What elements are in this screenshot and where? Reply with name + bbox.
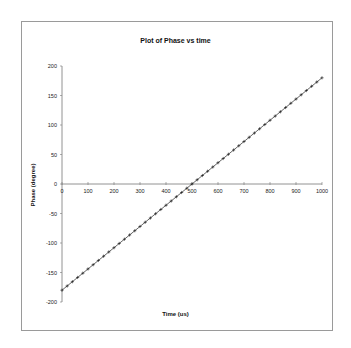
x-tick-label: 200	[109, 188, 118, 194]
x-tick-label: 400	[161, 188, 170, 194]
y-tick-label: -50	[49, 211, 57, 217]
x-tick-label: 500	[187, 188, 196, 194]
x-tick-label: 700	[239, 188, 248, 194]
x-tick-label: 100	[83, 188, 92, 194]
y-tick-label: -100	[46, 240, 57, 246]
y-tick-label: 100	[48, 122, 57, 128]
y-tick-label: -150	[46, 270, 57, 276]
x-tick-label: 800	[265, 188, 274, 194]
y-tick-label: 200	[48, 63, 57, 69]
y-tick-label: -200	[46, 299, 57, 305]
x-tick-label: 900	[291, 188, 300, 194]
x-tick-label: 600	[213, 188, 222, 194]
x-tick-label: 1000	[316, 188, 328, 194]
y-tick-label: 150	[48, 93, 57, 99]
y-tick-label: 50	[51, 152, 57, 158]
x-tick-label: 0	[60, 188, 63, 194]
y-tick-label: 0	[54, 181, 57, 187]
x-tick-label: 300	[135, 188, 144, 194]
plot-area: 200150100500-50-100-150-2000100200300400…	[0, 0, 351, 348]
